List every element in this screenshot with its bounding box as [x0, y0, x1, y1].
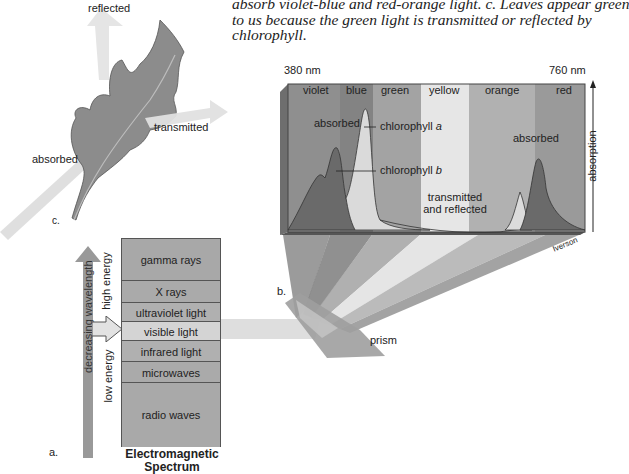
- em-band-xrays: X rays: [122, 280, 220, 303]
- em-band-visible: visible light: [122, 321, 220, 341]
- panel-c-label: c.: [52, 215, 60, 226]
- panel-a-label: a.: [49, 446, 58, 458]
- em-band-ultraviolet: ultraviolet light: [122, 302, 220, 322]
- low-energy-label: low energy: [102, 346, 114, 406]
- em-spectrum-title: Electromagnetic Spectrum: [108, 448, 236, 474]
- em-band-gamma: gamma rays: [122, 239, 220, 280]
- em-band-microwaves: microwaves: [122, 361, 220, 383]
- em-band-radio: radio waves: [122, 382, 220, 447]
- high-energy-label: high energy: [100, 251, 112, 311]
- leaf-illustration: [0, 0, 240, 240]
- prism-label: prism: [370, 334, 397, 346]
- visible-light-pointer-arrow: [92, 316, 124, 342]
- em-spectrum-box: gamma rays X rays ultraviolet light visi…: [121, 238, 221, 447]
- absorbed-label: absorbed: [32, 153, 78, 165]
- em-band-infrared: infrared light: [122, 340, 220, 362]
- reflected-label: reflected: [88, 2, 130, 14]
- transmitted-label: transmitted: [154, 121, 208, 133]
